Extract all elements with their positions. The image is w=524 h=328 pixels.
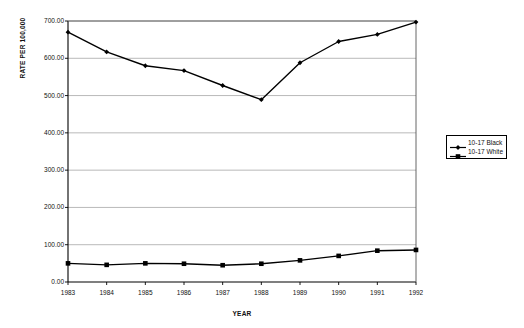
legend-diamond-marker-icon	[449, 138, 467, 147]
series-line	[68, 22, 416, 100]
data-point-marker	[336, 254, 341, 259]
series-line	[68, 250, 416, 265]
legend-item-label: 10-17 Black	[468, 139, 502, 146]
legend-item[interactable]: 10-17 White	[449, 147, 503, 156]
data-point-marker	[143, 63, 148, 68]
data-point-marker	[414, 248, 419, 253]
chart-legend: 10-17 Black10-17 White	[446, 135, 507, 159]
data-point-marker	[220, 263, 225, 268]
data-point-marker	[375, 32, 380, 37]
data-point-marker	[143, 261, 148, 266]
data-point-marker	[104, 50, 109, 55]
data-point-marker	[104, 263, 109, 268]
data-point-marker	[414, 20, 419, 25]
data-point-marker	[182, 261, 187, 266]
plot-area	[0, 0, 524, 328]
data-point-marker	[220, 83, 225, 88]
legend-item[interactable]: 10-17 Black	[449, 138, 503, 147]
line-chart: RATE PER 100,000 YEAR 0.00100.00200.0030…	[0, 0, 524, 328]
legend-square-marker-icon	[449, 147, 467, 156]
data-point-marker	[375, 248, 380, 253]
data-point-marker	[259, 261, 264, 266]
data-point-marker	[66, 30, 71, 35]
data-point-marker	[298, 258, 303, 263]
legend-item-label: 10-17 White	[468, 148, 503, 155]
data-point-marker	[182, 68, 187, 73]
data-point-marker	[66, 261, 71, 266]
